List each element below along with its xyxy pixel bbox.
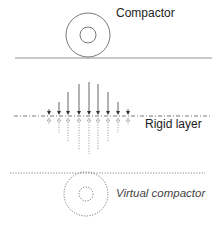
compactor-drum-icon (66, 13, 110, 57)
compactor-label: Compactor (116, 6, 175, 20)
virtual-compactor-label: Virtual compactor (116, 187, 205, 199)
rigid-layer-label: Rigid layer (145, 117, 202, 131)
stress-arrows (47, 82, 130, 154)
virtual-compactor-drum-icon (64, 172, 108, 216)
